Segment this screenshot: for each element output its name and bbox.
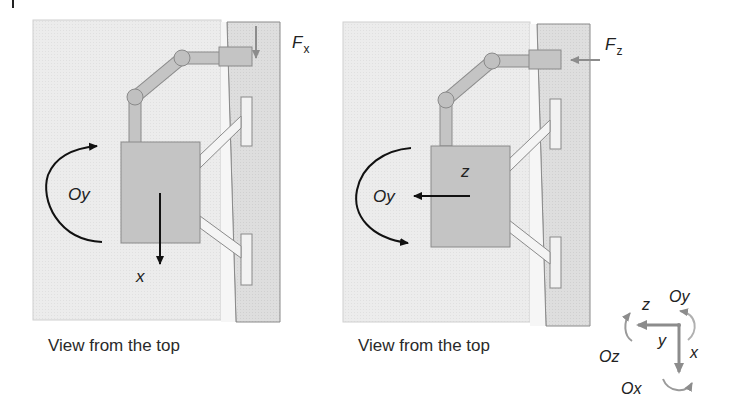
end-effector xyxy=(529,50,561,69)
oy-label: Oy xyxy=(669,288,690,305)
axis-label: x xyxy=(135,267,145,286)
wall-mount-bottom xyxy=(550,237,561,288)
panel-left: Fx Oy x View from the top xyxy=(33,20,309,355)
oz-rotation-icon xyxy=(625,313,632,341)
ox-rotation-icon xyxy=(663,379,692,390)
wall-mount-bottom xyxy=(241,234,252,285)
x-label: x xyxy=(689,344,699,361)
force-label: Fx xyxy=(292,33,309,56)
panel-caption: View from the top xyxy=(358,336,490,355)
joint-1 xyxy=(438,92,454,108)
joint-1 xyxy=(127,89,143,105)
edge-mark xyxy=(12,0,14,8)
oy-rotation-icon xyxy=(680,311,695,340)
panel-right: Fz Oy z View from the top xyxy=(343,22,622,355)
ox-label: Ox xyxy=(621,380,642,397)
rotation-label: Oy xyxy=(373,187,396,206)
oz-label: Oz xyxy=(599,348,619,365)
force-label: Fz xyxy=(605,35,622,58)
joint-2 xyxy=(174,50,190,66)
z-label: z xyxy=(641,296,650,313)
y-label: y xyxy=(657,332,667,349)
coordinate-frame: z Oy y x Oz Ox xyxy=(599,288,699,397)
wall-mount-top xyxy=(550,99,561,149)
panel-caption: View from the top xyxy=(48,336,180,355)
rotation-label: Oy xyxy=(68,185,91,204)
wall-mount-top xyxy=(241,97,252,146)
diagram-canvas: Fx Oy x View from the top Fz Oy z xyxy=(0,0,730,410)
end-effector xyxy=(219,47,252,66)
joint-2 xyxy=(484,53,500,69)
axis-label: z xyxy=(460,162,470,181)
